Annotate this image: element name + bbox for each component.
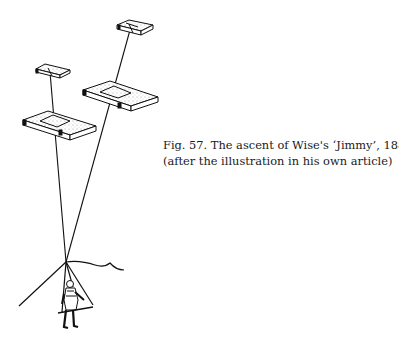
kite-right-large bbox=[83, 81, 158, 111]
caption-line-1: Fig. 57. The ascent of Wise's ‘Jimmy’, 1… bbox=[163, 138, 399, 154]
kite-left-small bbox=[36, 64, 70, 78]
caption-line-2: (after the illustration in his own artic… bbox=[163, 154, 399, 170]
kite-top-right bbox=[117, 20, 153, 35]
man-in-sling bbox=[58, 281, 93, 329]
figure-caption: Fig. 57. The ascent of Wise's ‘Jimmy’, 1… bbox=[163, 138, 399, 169]
kite-lines bbox=[50, 30, 130, 262]
kite-left-large bbox=[23, 111, 96, 140]
kite-illustration bbox=[0, 0, 399, 345]
